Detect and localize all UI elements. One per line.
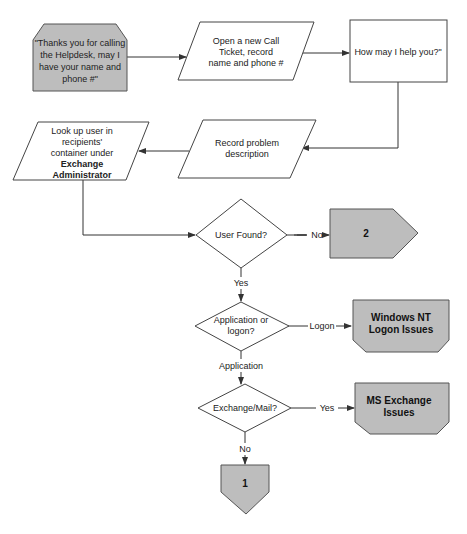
edge-lookup-to-userfound — [83, 180, 195, 235]
open-ticket-line-2: Ticket, record — [219, 47, 273, 57]
label-exchange-yes: Yes — [320, 403, 335, 413]
record-problem-line-1: Record problem — [215, 138, 279, 148]
lookup-line-3: container under — [51, 148, 114, 158]
label-application: Application — [219, 361, 263, 371]
lookup-line-1: Look up user in — [51, 126, 113, 136]
offpage-2-label: 2 — [363, 228, 369, 239]
node-app-or-logon: Application or logon? — [195, 302, 289, 351]
open-ticket-line-3: name and phone # — [208, 58, 283, 68]
node-how-help: How may I help you?" — [350, 20, 447, 82]
node-lookup-user: Look up user in recipients' container un… — [13, 122, 149, 180]
label-user-found-no: No — [311, 230, 323, 240]
ms-exchange-line-1: MS Exchange — [366, 395, 431, 406]
lookup-line-2: recipients' — [62, 137, 103, 147]
flowchart-canvas: "Thanks you for calling the Helpdesk, ma… — [0, 0, 467, 534]
user-found-text: User Found? — [215, 230, 267, 240]
app-or-logon-line-1: Application or — [214, 315, 269, 325]
open-ticket-line-1: Open a new Call — [213, 36, 280, 46]
node-ms-exchange: MS Exchange Issues — [355, 383, 449, 434]
ms-exchange-line-2: Issues — [383, 407, 415, 418]
node-exchange-mail: Exchange/Mail? — [198, 384, 291, 432]
app-or-logon-line-2: logon? — [227, 326, 254, 336]
nt-logon-line-2: Logon Issues — [369, 324, 434, 335]
label-logon: Logon — [309, 321, 334, 331]
edge-help-to-record — [302, 82, 398, 148]
label-exchange-no: No — [239, 444, 251, 454]
node-offpage-1: 1 — [221, 465, 269, 514]
how-help-text: How may I help you?" — [354, 47, 441, 57]
offpage-1-label: 1 — [242, 478, 248, 489]
lookup-bold-1: Exchange — [61, 159, 104, 169]
node-open-ticket: Open a new Call Ticket, record name and … — [178, 22, 314, 80]
greeting-line-4: phone #" — [62, 74, 98, 84]
greeting-line-1: "Thanks you for calling — [35, 38, 126, 48]
node-offpage-2: 2 — [330, 209, 418, 258]
greeting-line-3: have your name and — [39, 62, 121, 72]
node-greeting: "Thanks you for calling the Helpdesk, ma… — [33, 24, 127, 91]
node-nt-logon: Windows NT Logon Issues — [353, 300, 449, 352]
exchange-mail-text: Exchange/Mail? — [213, 403, 277, 413]
nt-logon-line-1: Windows NT — [371, 312, 431, 323]
label-user-found-yes: Yes — [234, 278, 249, 288]
greeting-line-2: the Helpdesk, may I — [40, 50, 120, 60]
record-problem-line-2: description — [225, 149, 269, 159]
node-user-found: User Found? — [196, 199, 287, 268]
node-record-problem: Record problem description — [178, 120, 316, 178]
lookup-bold-2: Administrator — [52, 170, 112, 180]
